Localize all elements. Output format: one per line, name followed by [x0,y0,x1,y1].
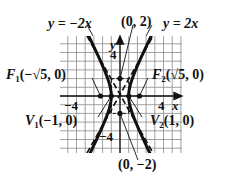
covertex-top-point [117,76,122,81]
x-tick-4: 4 [158,99,165,112]
x-tick-neg4: −4 [64,99,78,112]
focus-left-label: F1(−√5, 0) [6,68,66,84]
covertex-bottom-label: (0, −2) [118,158,156,172]
focus-right-point [137,93,142,98]
focus-right-label: F2(√5, 0) [152,68,204,84]
covertex-bottom-point [117,111,122,116]
y-tick-neg4: −4 [99,130,113,143]
covertex-top-label: (0, 2) [121,15,151,29]
vertex-left-point [109,93,114,98]
vertex-right-point [126,93,131,98]
focus-left-point [98,93,103,98]
y-axis-arrow-icon [117,36,124,44]
vertex-right-label: V2(1, 0) [150,114,194,130]
grid [60,36,182,153]
x-axis-label: x [172,99,179,112]
vertex-left-label: V1(−1, 0) [25,114,77,130]
y-tick-4: 4 [110,48,117,61]
asymptote-right-label: y = 2x [163,17,198,31]
asymptote-left-label: y = −2x [48,17,92,31]
